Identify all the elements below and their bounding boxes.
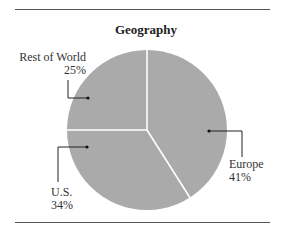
label-name: Europe — [229, 157, 264, 171]
label-name: U.S. — [51, 185, 72, 199]
label-pct: 34% — [51, 199, 73, 212]
label-europe: Europe 41% — [229, 158, 264, 184]
leader-dot — [86, 96, 89, 99]
label-pct: 41% — [229, 171, 264, 184]
pie-slices — [67, 50, 227, 210]
label-rest-of-world: Rest of World 25% — [19, 51, 86, 77]
label-us: U.S. 34% — [51, 186, 73, 212]
pie-chart — [0, 0, 282, 228]
leader-dot — [207, 129, 210, 132]
leader-dot — [85, 145, 88, 148]
label-pct: 25% — [19, 64, 86, 77]
bottom-rule — [15, 222, 270, 223]
label-name: Rest of World — [19, 50, 86, 64]
